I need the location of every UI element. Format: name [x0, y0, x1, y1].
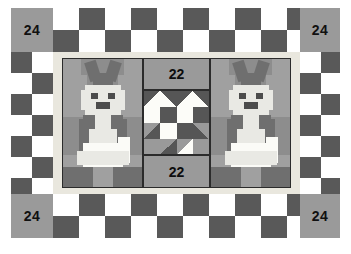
- checker-square: [11, 52, 32, 73]
- checker-square: [157, 194, 183, 216]
- heart-cell-r3c1: [144, 123, 160, 139]
- center-block-top-22[interactable]: 22: [143, 58, 210, 90]
- checker-square: [32, 136, 53, 157]
- checker-square: [300, 115, 321, 136]
- checker-square: [32, 73, 53, 94]
- checker-square: [131, 194, 157, 216]
- checker-square: [131, 8, 157, 30]
- bunny-eye-left: [91, 93, 98, 99]
- checker-square: [321, 73, 340, 94]
- bunny-ground-accent: [93, 165, 113, 187]
- checker-square: [105, 194, 131, 216]
- checker-square: [321, 115, 340, 136]
- checker-square: [53, 216, 79, 238]
- heart-cell-r4c3: [177, 139, 193, 154]
- heart-cell-r1c2: [160, 91, 177, 107]
- checker-square: [105, 8, 131, 30]
- checker-square: [261, 30, 287, 52]
- bunny-skirt: [225, 151, 277, 165]
- checker-square: [209, 216, 235, 238]
- checker-square: [321, 178, 340, 194]
- heart-cell-r2c1: [144, 107, 160, 123]
- checker-square: [321, 157, 340, 178]
- checker-square: [183, 216, 209, 238]
- checker-square: [235, 30, 261, 52]
- checker-square: [53, 194, 79, 216]
- corner-label: 24: [312, 208, 329, 224]
- bunny-nose: [244, 102, 258, 109]
- checker-square: [287, 216, 300, 238]
- checker-square: [11, 115, 32, 136]
- bunny-eye-right: [108, 93, 115, 99]
- checker-square: [11, 136, 32, 157]
- corner-block-top-right[interactable]: 24: [300, 8, 340, 52]
- checker-square: [32, 178, 53, 194]
- center-block-bottom-22[interactable]: 22: [143, 155, 210, 188]
- center-block-label: 22: [169, 164, 185, 180]
- checker-square: [131, 30, 157, 52]
- checker-square: [11, 157, 32, 178]
- bunny-skirt: [77, 151, 129, 165]
- checker-square: [209, 30, 235, 52]
- checker-square: [157, 216, 183, 238]
- bunny-block-left[interactable]: [62, 58, 143, 188]
- center-block-label: 22: [169, 66, 185, 82]
- checker-square: [300, 178, 321, 194]
- heart-cell-r4c1: [144, 139, 160, 154]
- bunny-block-right[interactable]: [210, 58, 291, 188]
- checker-square: [287, 8, 300, 30]
- checker-square: [32, 52, 53, 73]
- checker-square: [183, 194, 209, 216]
- checker-square: [32, 115, 53, 136]
- heart-cell-r2c2: [160, 107, 177, 123]
- checker-square: [105, 216, 131, 238]
- heart-cell-r3c4: [193, 123, 209, 139]
- checker-square: [321, 136, 340, 157]
- bunny-ground-accent: [241, 165, 261, 187]
- heart-cell-r1c3: [177, 91, 193, 107]
- checker-square: [157, 8, 183, 30]
- checker-square: [235, 194, 261, 216]
- bunny-eye-right: [256, 93, 263, 99]
- checker-square: [300, 73, 321, 94]
- checker-square: [79, 30, 105, 52]
- corner-label: 24: [312, 22, 329, 38]
- corner-label: 24: [24, 22, 41, 38]
- heart-cell-r3c2: [160, 123, 177, 139]
- checker-square: [300, 157, 321, 178]
- checker-square: [32, 157, 53, 178]
- corner-block-top-left[interactable]: 24: [11, 8, 53, 52]
- checker-square: [79, 194, 105, 216]
- checker-square: [300, 52, 321, 73]
- quilt-diagram: 24 24 24 24: [0, 0, 351, 254]
- corner-block-bottom-right[interactable]: 24: [300, 194, 340, 238]
- checker-square: [300, 94, 321, 115]
- checker-square: [235, 216, 261, 238]
- heart-cell-r4c2: [160, 139, 177, 154]
- heart-cell-r2c3: [177, 107, 193, 123]
- heart-cell-r1c4: [193, 91, 209, 107]
- checker-square: [209, 194, 235, 216]
- checker-square: [261, 8, 287, 30]
- heart-block[interactable]: [143, 90, 210, 155]
- heart-cell-r4c4: [193, 139, 209, 154]
- checker-square: [300, 136, 321, 157]
- corner-block-bottom-left[interactable]: 24: [11, 194, 53, 238]
- checker-square: [261, 216, 287, 238]
- heart-cell-r1c1: [144, 91, 160, 107]
- checker-square: [105, 30, 131, 52]
- checker-square: [53, 8, 79, 30]
- checker-square: [321, 52, 340, 73]
- checker-square: [235, 8, 261, 30]
- bunny-nose: [96, 102, 110, 109]
- checker-square: [11, 94, 32, 115]
- checker-square: [321, 94, 340, 115]
- checker-square: [11, 178, 32, 194]
- checker-square: [79, 216, 105, 238]
- checker-square: [209, 8, 235, 30]
- heart-cell-r2c4: [193, 107, 209, 123]
- checker-square: [131, 216, 157, 238]
- checker-square: [287, 194, 300, 216]
- checker-square: [287, 30, 300, 52]
- heart-cell-r3c3: [177, 123, 193, 139]
